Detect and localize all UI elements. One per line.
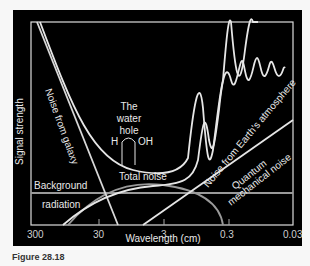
background-label-1: Background	[34, 180, 87, 191]
galaxy-noise-line	[37, 22, 118, 225]
y-axis-label: Signal strength	[14, 98, 25, 165]
tick-300: 300	[27, 229, 44, 240]
h-label: H	[111, 136, 118, 147]
tick-3: 3	[161, 229, 167, 240]
galaxy-noise-label: Noise from galaxy	[43, 87, 81, 166]
water-hole-bracket	[122, 138, 135, 165]
noise-chart: Signal strength Wavelength (cm) 300 30 3…	[13, 10, 302, 246]
water-hole-label-1: The	[120, 101, 138, 112]
tick-30: 30	[93, 229, 105, 240]
tick-0.03: 0.03	[283, 229, 302, 240]
total-noise-label: Total noise	[119, 171, 167, 182]
background-label-2: radiation	[42, 199, 80, 210]
tick-0.3: 0.3	[220, 229, 234, 240]
water-hole-label-2: water	[116, 113, 142, 124]
oh-label: OH	[138, 136, 153, 147]
figure-panel: Signal strength Wavelength (cm) 300 30 3…	[13, 10, 302, 246]
figure-caption: Figure 28.18	[12, 252, 65, 262]
water-hole-label-3: hole	[120, 125, 139, 136]
